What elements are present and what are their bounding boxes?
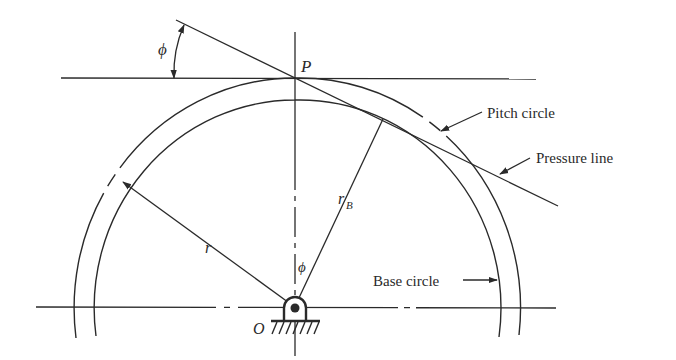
pressure-angle-arc [174, 25, 184, 78]
pitch-radius-label: r [205, 239, 212, 256]
pivot-bearing-icon [271, 297, 320, 334]
base-radius-label: r [338, 190, 345, 207]
base-circle-label: Base circle [373, 273, 440, 289]
pressure-line-leader [500, 158, 530, 174]
base-radius-subscript: B [346, 199, 353, 211]
pitch-circle-label: Pitch circle [487, 105, 555, 121]
pitch-point-label: P [300, 57, 311, 76]
pressure-angle-label-center: ϕ [298, 259, 306, 275]
pitch-circle-leader [441, 112, 482, 131]
base-radius-line [298, 119, 383, 300]
pressure-angle-label-top: ϕ [158, 40, 167, 59]
pressure-line-label: Pressure line [536, 150, 613, 166]
gear-diagram: ϕ P Pitch circle Pressure line r r B ϕ B… [0, 0, 676, 360]
center-label: O [253, 320, 265, 337]
